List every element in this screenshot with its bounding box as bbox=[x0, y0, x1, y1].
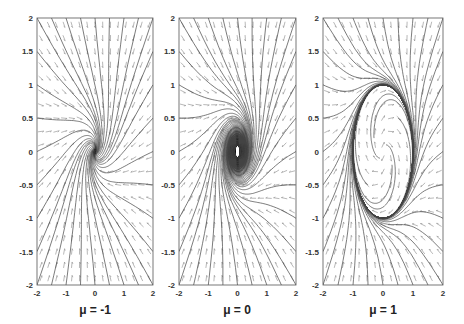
y-tick-label: -1 bbox=[168, 214, 176, 223]
y-tick-label: -2 bbox=[168, 281, 176, 290]
trajectories bbox=[323, 18, 443, 285]
y-tick-label: -1 bbox=[312, 214, 320, 223]
plot-area bbox=[179, 18, 296, 285]
y-tick-label: 0 bbox=[315, 148, 320, 157]
y-tick-label: 2 bbox=[315, 14, 320, 23]
y-tick-label: 0.5 bbox=[164, 114, 176, 123]
panel-title-mu-0: μ = 0 bbox=[223, 303, 251, 317]
panel-title-mu-minus-1: μ = -1 bbox=[79, 303, 111, 317]
panel-mu-0: -2-101221.510.50-0.5-1-1.5-2 bbox=[161, 14, 299, 298]
x-tick-label: 1 bbox=[265, 289, 270, 298]
y-tick-label: -0.5 bbox=[19, 181, 33, 190]
plot-area bbox=[37, 18, 153, 285]
y-tick-label: 0 bbox=[29, 148, 34, 157]
x-tick-label: 0 bbox=[93, 289, 98, 298]
x-tick-label: 0 bbox=[381, 289, 386, 298]
y-tick-label: 1 bbox=[171, 81, 176, 90]
y-tick-label: -0.5 bbox=[305, 181, 319, 190]
trajectories bbox=[37, 18, 153, 285]
y-tick-label: 1.5 bbox=[22, 47, 34, 56]
y-tick-label: 0.5 bbox=[22, 114, 34, 123]
x-tick-label: 2 bbox=[151, 289, 156, 298]
x-tick-label: 2 bbox=[294, 289, 299, 298]
x-tick-label: 0 bbox=[235, 289, 240, 298]
y-tick-label: -1.5 bbox=[19, 248, 33, 257]
panel-title-mu-1: μ = 1 bbox=[369, 303, 397, 317]
x-tick-label: -1 bbox=[205, 289, 213, 298]
y-tick-label: -1.5 bbox=[305, 248, 319, 257]
y-tick-label: -2 bbox=[26, 281, 34, 290]
y-tick-label: -2 bbox=[312, 281, 320, 290]
trajectories bbox=[179, 18, 296, 285]
x-tick-label: -2 bbox=[33, 289, 41, 298]
x-tick-label: -2 bbox=[175, 289, 183, 298]
plot-area bbox=[323, 18, 443, 285]
x-tick-label: 1 bbox=[122, 289, 127, 298]
y-tick-label: 1.5 bbox=[308, 47, 320, 56]
y-tick-label: 2 bbox=[171, 14, 176, 23]
panel-mu-1: -2-101221.510.50-0.5-1-1.5-2 bbox=[305, 14, 446, 298]
x-tick-label: 1 bbox=[411, 289, 416, 298]
x-tick-label: -2 bbox=[319, 289, 327, 298]
phase-portrait-figure: -2-101221.510.50-0.5-1-1.5-2 -2-101221.5… bbox=[0, 0, 464, 324]
vector-field bbox=[180, 22, 295, 282]
y-tick-label: -1 bbox=[26, 214, 34, 223]
axes-frame bbox=[179, 18, 296, 285]
y-tick-label: 1 bbox=[29, 81, 34, 90]
y-tick-label: 1 bbox=[315, 81, 320, 90]
y-tick-label: 0.5 bbox=[308, 114, 320, 123]
y-tick-label: 2 bbox=[29, 14, 34, 23]
y-tick-label: 1.5 bbox=[164, 47, 176, 56]
x-tick-label: -1 bbox=[349, 289, 357, 298]
y-tick-label: 0 bbox=[171, 148, 176, 157]
x-tick-label: 2 bbox=[441, 289, 446, 298]
axes-frame bbox=[323, 18, 443, 285]
y-tick-label: -1.5 bbox=[161, 248, 175, 257]
panel-mu-minus-1: -2-101221.510.50-0.5-1-1.5-2 bbox=[19, 14, 156, 298]
x-tick-label: -1 bbox=[62, 289, 70, 298]
y-tick-label: -0.5 bbox=[161, 181, 175, 190]
